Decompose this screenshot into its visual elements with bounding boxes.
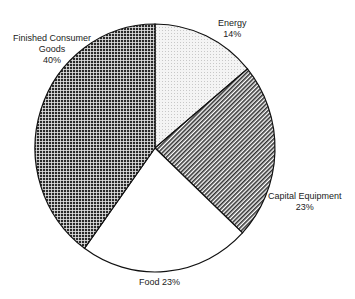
- energy-pct: 14%: [218, 29, 247, 40]
- capital-name: Capital Equipment: [268, 191, 342, 202]
- energy-name: Energy: [218, 18, 247, 29]
- fcg-line2: Goods: [13, 44, 91, 55]
- finished-consumer-goods-label: Finished Consumer Goods 40%: [13, 33, 91, 66]
- capital-equipment-label: Capital Equipment 23%: [268, 191, 342, 213]
- fcg-pct: 40%: [13, 55, 91, 66]
- energy-label: Energy 14%: [218, 18, 247, 40]
- food-label: Food 23%: [139, 277, 180, 288]
- fcg-line1: Finished Consumer: [13, 33, 91, 44]
- capital-pct: 23%: [268, 202, 342, 213]
